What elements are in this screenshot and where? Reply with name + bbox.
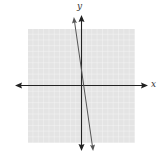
x-axis-left-arrow-icon	[15, 83, 22, 89]
y-axis-label: y	[77, 2, 82, 11]
x-axis-right-arrow-icon	[141, 83, 148, 89]
y-axis-bottom-arrow-icon	[79, 144, 85, 151]
coordinate-graph	[0, 0, 157, 155]
x-axis-label: x	[151, 80, 156, 89]
y-axis-top-arrow-icon	[79, 15, 85, 22]
